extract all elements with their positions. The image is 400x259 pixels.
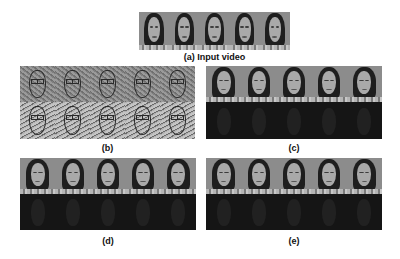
face: [252, 163, 266, 186]
eye: [210, 26, 214, 28]
panel-a-input-video: [139, 12, 290, 50]
eye: [271, 26, 275, 28]
eye: [173, 172, 177, 173]
video-frame-face: [126, 158, 161, 194]
eye: [138, 172, 142, 173]
panel-b-caption: (b): [20, 143, 195, 153]
face: [101, 163, 115, 186]
residual-ghost: [31, 199, 45, 226]
video-frame-face: [276, 66, 311, 102]
panel-a-caption: (a) Input video: [139, 52, 290, 62]
video-frame-face: [241, 158, 276, 194]
video-frame-edge: [55, 66, 90, 102]
video-frame-edge: [90, 66, 125, 102]
eye: [219, 172, 223, 173]
panel-c-caption: (c): [206, 143, 382, 153]
video-frame-residual: [206, 102, 241, 139]
face: [252, 71, 266, 94]
video-frame-residual: [312, 102, 347, 139]
panel-b: [20, 66, 195, 139]
panel-e-face-row: [206, 158, 382, 194]
residual-ghost: [252, 199, 266, 226]
panel-d-dark-row: [20, 194, 196, 230]
mouth: [182, 36, 187, 38]
video-frame-edge: [160, 66, 195, 102]
eye: [109, 172, 113, 173]
collar: [169, 45, 199, 50]
video-frame-residual: [161, 194, 196, 230]
eye-contour: [107, 79, 114, 84]
face-contour: [29, 106, 47, 134]
video-frame-residual: [347, 102, 382, 139]
video-frame-residual: [347, 194, 382, 230]
residual-ghost: [66, 199, 80, 226]
residual-ghost: [171, 199, 185, 226]
eye: [38, 172, 42, 173]
face-contour: [99, 70, 117, 97]
video-frame-face: [199, 12, 229, 50]
video-frame-residual: [55, 194, 90, 230]
panel-e-caption: (e): [206, 236, 382, 246]
panel-e: [206, 158, 382, 230]
face: [269, 17, 281, 41]
collar: [260, 45, 290, 50]
eye-contour: [142, 115, 149, 120]
video-frame-face: [230, 12, 260, 50]
eye-contour: [72, 79, 79, 84]
eye-contour: [107, 115, 114, 120]
panel-a-face-row: [139, 12, 290, 50]
video-frame-edge: [125, 102, 160, 139]
panel-c-face-row: [206, 66, 382, 102]
eye: [33, 172, 37, 173]
residual-ghost: [101, 199, 115, 226]
panel-d-caption: (d): [20, 236, 196, 246]
eye: [324, 80, 328, 81]
face: [217, 163, 231, 186]
video-frame-residual: [20, 194, 55, 230]
collar: [139, 45, 169, 50]
panel-d-face-row: [20, 158, 196, 194]
face: [287, 71, 301, 94]
residual-ghost: [136, 199, 150, 226]
video-frame-residual: [241, 194, 276, 230]
video-frame-residual: [90, 194, 125, 230]
collar: [230, 45, 260, 50]
panel-b-top-row: [20, 66, 195, 102]
face: [217, 71, 231, 94]
video-frame-face: [169, 12, 199, 50]
mouth: [272, 36, 277, 38]
face-contour: [134, 70, 152, 97]
eye: [215, 26, 219, 28]
residual-ghost: [217, 199, 231, 226]
face: [148, 17, 160, 41]
panel-d: [20, 158, 196, 230]
eye: [74, 172, 78, 173]
video-frame-edge: [20, 66, 55, 102]
video-frame-edge: [125, 66, 160, 102]
eye: [224, 172, 228, 173]
residual-ghost: [322, 108, 336, 136]
eye-contour: [177, 79, 184, 84]
residual-ghost: [287, 108, 301, 136]
video-frame-face: [312, 158, 347, 194]
mouth: [152, 36, 157, 38]
video-frame-edge: [55, 102, 90, 139]
video-frame-face: [139, 12, 169, 50]
video-frame-face: [20, 158, 55, 194]
residual-ghost: [357, 199, 371, 226]
collar: [199, 45, 229, 50]
face: [208, 17, 220, 41]
face-contour: [64, 106, 82, 134]
eye-contour: [72, 115, 79, 120]
face-contour: [169, 106, 187, 134]
mouth: [242, 36, 247, 38]
eye: [185, 26, 189, 28]
video-frame-edge: [90, 102, 125, 139]
face: [31, 163, 45, 186]
video-frame-edge: [20, 102, 55, 139]
eye: [260, 80, 264, 81]
eye: [295, 172, 299, 173]
eye: [224, 80, 228, 81]
video-frame-face: [206, 66, 241, 102]
video-frame-residual: [241, 102, 276, 139]
